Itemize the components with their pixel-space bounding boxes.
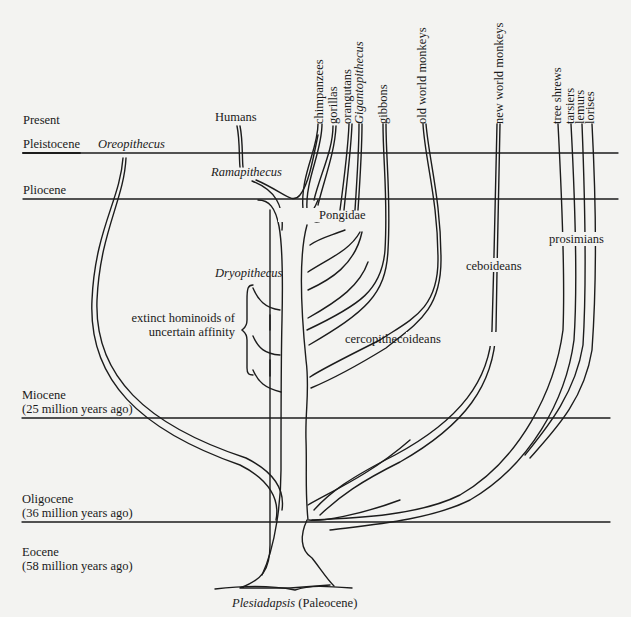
trunk <box>215 200 410 590</box>
extinct-hominoids-label-line2: uncertain affinity <box>130 325 235 339</box>
epoch-eocene-label: Eocene <box>22 545 59 559</box>
ramapithecus-label: Ramapithecus <box>211 165 282 179</box>
taxon-gibbons-label: gibbons <box>377 84 390 124</box>
oreopithecus-label: Oreopithecus <box>98 137 165 151</box>
ceboideans-label: ceboideans <box>466 259 522 273</box>
epoch-oligocene-age: (36 million years ago) <box>22 506 133 520</box>
taxon-gigantopithecus-label: Gigantopithecus <box>353 41 366 124</box>
pongidae-label: Pongidae <box>319 208 366 222</box>
epoch-pleistocene-label: Pleistocene <box>23 137 80 151</box>
cercopithecoideans-label: cercopithecoideans <box>345 332 441 346</box>
extinct-hominoids-label-line1: extinct hominoids of <box>130 311 235 325</box>
epoch-miocene-age: (25 million years ago) <box>22 402 133 416</box>
epoch-pliocene-label: Pliocene <box>23 183 66 197</box>
taxon-new-world-monkeys-label: new world monkeys <box>493 23 506 124</box>
new-world-monkeys-branch <box>314 124 500 515</box>
humans-label: Humans <box>215 110 257 124</box>
root-label: Plesiadapsis (Paleocene) <box>232 596 357 610</box>
extinct-hominoids-brace <box>242 285 281 392</box>
taxon-gorillas-label: gorillas <box>327 87 340 125</box>
root-genus: Plesiadapsis <box>232 596 295 610</box>
taxon-lorises-label: lorises <box>584 91 597 124</box>
prosimians-label: prosimians <box>549 232 604 246</box>
dryopithecus-label: Dryopithecus <box>215 266 282 280</box>
taxon-chimpanzees-label: chimpanzees <box>313 59 326 124</box>
prosimians-branch <box>312 124 595 530</box>
epoch-present-label: Present <box>23 113 60 127</box>
taxon-old-world-monkeys-label: old world monkeys <box>416 27 429 124</box>
epoch-oligocene-label: Oligocene <box>22 492 73 506</box>
epoch-eocene-age: (58 million years ago) <box>22 559 133 573</box>
epoch-miocene-label: Miocene <box>22 388 66 402</box>
root-epoch: (Paleocene) <box>298 596 357 610</box>
